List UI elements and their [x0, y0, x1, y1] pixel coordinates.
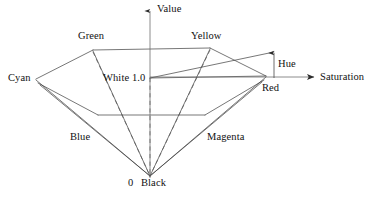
edge-cyan-to-mid: [38, 83, 98, 115]
vertex-label-yellow: Yellow: [191, 30, 221, 41]
vertex-label-blue: Blue: [70, 131, 90, 142]
edge-red-to-mid: [205, 80, 264, 115]
edge-white-hue-top: [150, 52, 274, 78]
vertex-label-green: Green: [78, 30, 104, 41]
origin-label: 0: [128, 177, 133, 188]
edge-cyan-black-inner: [40, 85, 150, 176]
vertex-label-cyan: Cyan: [8, 72, 31, 83]
vertex-label-magenta: Magenta: [207, 131, 244, 142]
edge-yellow-red: [210, 48, 266, 76]
edge-cyan-green: [36, 50, 93, 79]
saturation-axis-label: Saturation: [320, 71, 364, 82]
vertex-label-red: Red: [262, 82, 279, 93]
hsv-hexcone-figure: Value Saturation Hue Green Yellow Cyan R…: [0, 0, 372, 205]
value-axis-label: Value: [157, 3, 181, 14]
white-value-label: White 1.0: [103, 72, 145, 83]
black-label: Black: [141, 177, 166, 188]
edge-green-yellow: [93, 48, 210, 50]
hsv-diagram-canvas: [0, 0, 372, 205]
hue-label: Hue: [278, 58, 296, 69]
edge-red-black-inner: [150, 82, 262, 176]
